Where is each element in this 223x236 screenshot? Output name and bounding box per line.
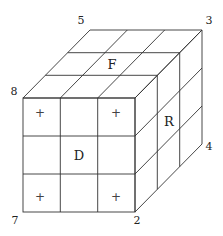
corner-label-back-top-left: 5	[78, 14, 85, 27]
plus-mark-bottom-right: +	[111, 190, 121, 204]
top-face-label: F	[107, 57, 116, 72]
corner-label-back-bottom-right: 4	[206, 140, 213, 153]
plus-mark-top-left: +	[35, 106, 45, 120]
right-face-label: R	[164, 114, 175, 129]
corner-label-front-bottom-right: 2	[134, 214, 141, 227]
corner-label-back-top-right: 3	[206, 14, 213, 27]
cube-diagram: F D R + + + + 5 3 8 7 2 4	[0, 0, 223, 236]
corner-label-front-bottom-left: 7	[12, 214, 19, 227]
corner-label-front-top-left: 8	[11, 85, 18, 98]
front-face-label: D	[74, 148, 84, 163]
plus-mark-top-right: +	[111, 106, 121, 120]
plus-mark-bottom-left: +	[35, 190, 45, 204]
